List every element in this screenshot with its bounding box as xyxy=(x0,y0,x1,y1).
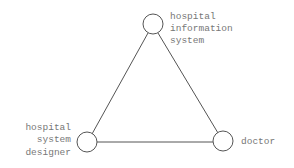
label-designer-line2: system xyxy=(37,134,72,145)
label-his-line3: system xyxy=(170,35,205,46)
edge-his-designer xyxy=(92,33,148,134)
node-doctor[interactable] xyxy=(213,131,233,151)
label-designer-line1: hospital xyxy=(25,122,71,133)
node-hospital-information-system[interactable] xyxy=(143,14,163,34)
edge-his-doctor xyxy=(158,33,218,133)
label-his-line1: hospital xyxy=(170,11,216,22)
label-his-line2: information xyxy=(170,23,233,34)
relationship-diagram: hospital information system hospital sys… xyxy=(0,0,294,168)
label-doctor: doctor xyxy=(241,136,275,147)
node-hospital-system-designer[interactable] xyxy=(77,132,97,152)
label-designer-line3: designer xyxy=(25,147,71,158)
